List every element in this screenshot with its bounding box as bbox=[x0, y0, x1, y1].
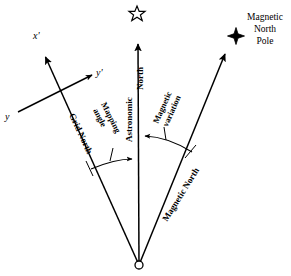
magnetic-north-pole-label-line2: North bbox=[254, 24, 276, 34]
astronomic-north-label-line2: North bbox=[135, 67, 145, 90]
y-prime-axis-label: y' bbox=[95, 67, 103, 78]
magnetic-north-ray bbox=[139, 54, 225, 265]
astronomic-north-label-group: Astronomic North bbox=[124, 67, 145, 142]
magnetic-north-line bbox=[139, 54, 225, 265]
magnetic-variation-arc bbox=[145, 136, 192, 152]
magnetic-north-pole-label-line3: Pole bbox=[257, 36, 274, 46]
astronomic-north-label-line1: Astronomic bbox=[124, 97, 134, 142]
diagram-canvas: x' y' y Grid North Mapping angle Astrono… bbox=[0, 0, 291, 276]
magnetic-north-pole-label-group: Magnetic North Pole bbox=[247, 12, 283, 46]
x-prime-axis-label: x' bbox=[32, 30, 40, 41]
magnetic-north-pole-label-line1: Magnetic bbox=[247, 12, 283, 22]
y-prime-axis bbox=[18, 75, 92, 112]
magnetic-north-label-group: Magnetic North bbox=[160, 166, 201, 223]
grid-north-label-group: Grid North bbox=[67, 112, 95, 156]
mapping-angle-leader bbox=[110, 148, 113, 161]
grid-north-label: Grid North bbox=[67, 112, 95, 156]
astronomic-north-star-icon bbox=[129, 6, 145, 21]
north-directions-diagram: x' y' y Grid North Mapping angle Astrono… bbox=[0, 0, 291, 276]
origin-circle-marker bbox=[135, 261, 143, 269]
magnetic-north-label: Magnetic North bbox=[160, 166, 201, 223]
grid-north-ray bbox=[46, 57, 140, 265]
y-axis-label: y bbox=[4, 111, 10, 122]
y-prime-line bbox=[18, 75, 92, 112]
magnetic-north-pole-star-icon bbox=[228, 28, 245, 45]
grid-north-line bbox=[46, 57, 140, 265]
magnetic-variation-label-group: Magnetic variation bbox=[151, 89, 183, 128]
mapping-angle-arc bbox=[91, 159, 132, 169]
magnetic-variation-leader bbox=[164, 127, 166, 140]
mapping-angle-label-group: Mapping angle bbox=[90, 100, 123, 139]
